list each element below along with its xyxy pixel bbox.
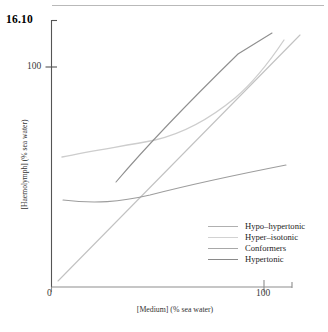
curve-hyper-isotonic <box>62 40 284 157</box>
y-axis-tick-label-100: 100 <box>27 61 41 71</box>
curve-hypertonic <box>116 33 272 182</box>
legend-item-conformers: Conformers <box>208 243 305 254</box>
legend-item-hyper-isotonic: Hyper–isotonic <box>208 232 305 243</box>
chart-legend: Hypo–hypertonic Hyper–isotonic Conformer… <box>208 221 305 265</box>
y-axis-title: [Haemolymph] (% sea water) <box>20 100 29 230</box>
legend-label: Hypo–hypertonic <box>245 221 305 232</box>
legend-swatch-icon <box>208 248 238 249</box>
legend-swatch-icon <box>208 237 238 238</box>
curve-conformers <box>63 165 286 202</box>
legend-label: Conformers <box>245 243 286 254</box>
x-axis-tick-label-0: 0 <box>47 288 52 298</box>
legend-item-hypertonic: Hypertonic <box>208 254 305 265</box>
figure-container: 16.10 100 0 100 [ <box>0 0 328 332</box>
legend-label: Hypertonic <box>245 254 284 265</box>
legend-swatch-icon <box>208 226 238 227</box>
legend-label: Hyper–isotonic <box>245 232 298 243</box>
legend-swatch-icon <box>208 259 238 260</box>
x-axis-title: [Medium] (% sea water) <box>100 305 250 314</box>
plot-canvas <box>0 0 328 332</box>
legend-item-hypo-hypertonic: Hypo–hypertonic <box>208 221 305 232</box>
x-axis-tick-label-100: 100 <box>256 288 270 298</box>
y-axis <box>46 20 58 287</box>
